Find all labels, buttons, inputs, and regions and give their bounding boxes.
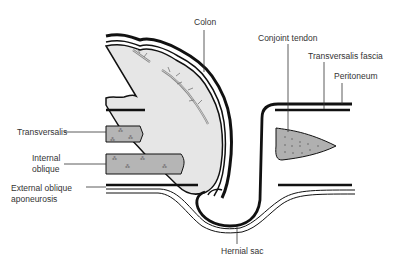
svg-text:⁂: ⁂ [125, 163, 130, 169]
svg-text:⁂: ⁂ [128, 134, 133, 140]
internal-oblique-muscle [106, 154, 184, 174]
label-transversalis-fascia: Transversalis fascia [308, 51, 383, 61]
label-hernial-sac: Hernial sac [221, 246, 264, 256]
svg-text:⁂: ⁂ [112, 155, 117, 161]
label-conjoint-tendon: Conjoint tendon [258, 33, 318, 43]
conjoint-tendon [276, 128, 336, 160]
label-internal-oblique-2: oblique [32, 164, 59, 174]
label-colon: Colon [194, 17, 216, 27]
label-external-oblique-2: aponeurosis [11, 194, 57, 204]
label-external-oblique-1: External oblique [11, 183, 72, 193]
svg-text:⁂: ⁂ [140, 155, 145, 161]
svg-text:⁂: ⁂ [162, 163, 167, 169]
svg-text:⁂: ⁂ [110, 136, 115, 142]
label-transversalis: Transversalis [17, 127, 67, 137]
label-peritoneum: Peritoneum [334, 71, 377, 81]
svg-text:⁂: ⁂ [118, 127, 123, 133]
label-internal-oblique-1: Internal [32, 153, 60, 163]
